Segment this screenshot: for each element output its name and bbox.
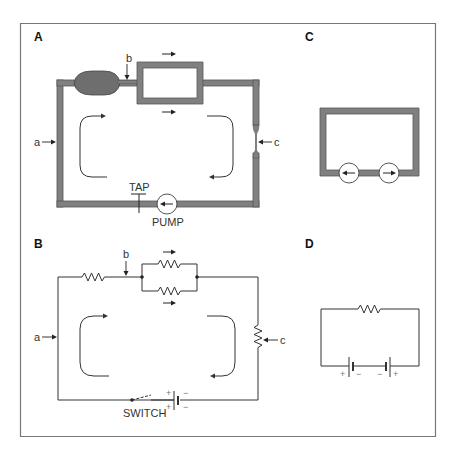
wire-left xyxy=(58,277,132,400)
panel-a: A b xyxy=(34,30,280,228)
pipe-left xyxy=(57,80,63,207)
tap-label: TAP xyxy=(129,181,150,193)
panel-d: D + − − + xyxy=(305,237,419,379)
battery-plus-top: + xyxy=(166,388,171,398)
d-wire-left xyxy=(321,309,349,366)
reservoir xyxy=(74,71,120,95)
pipe-right-upper xyxy=(253,80,259,125)
point-b-label: b xyxy=(126,52,132,64)
b-point-b-label: b xyxy=(123,248,129,260)
junction-right xyxy=(195,275,199,279)
pump-label: PUMP xyxy=(152,216,184,228)
resistor-parallel-lower xyxy=(142,277,197,295)
b-point-c-label: c xyxy=(280,334,286,346)
b-circulation-arrowhead-right-icon xyxy=(210,374,215,379)
pipe-constriction xyxy=(253,125,259,158)
point-b-arrow-icon xyxy=(125,75,130,80)
flow-arrow-top xyxy=(162,52,176,57)
point-c-arrow-icon xyxy=(258,140,263,145)
point-a-label: a xyxy=(34,136,41,148)
point-a-arrow-icon xyxy=(51,140,56,145)
switch-lever[interactable] xyxy=(132,395,151,400)
resistor-variable-right xyxy=(197,277,262,400)
circulation-arrow-left xyxy=(80,116,107,177)
d-battery2-minus: − xyxy=(377,369,382,379)
resistor-parallel-upper xyxy=(142,260,197,277)
b-circulation-arrow-left xyxy=(80,316,109,376)
b-circulation-arrowhead-left-icon xyxy=(103,314,108,319)
panel-c: C xyxy=(305,30,419,183)
panel-d-label: D xyxy=(305,237,314,251)
parallel-pipe-loop xyxy=(137,62,203,104)
b-point-b-arrow-icon xyxy=(124,271,129,276)
d-battery2-plus: + xyxy=(393,369,398,379)
battery-plus-bottom: + xyxy=(166,402,171,412)
battery-minus-bottom: − xyxy=(183,402,188,412)
d-battery1-minus: − xyxy=(356,369,361,379)
circulation-arrow-right xyxy=(207,116,233,177)
pipe-right-lower xyxy=(253,153,259,207)
panel-a-label: A xyxy=(34,30,43,44)
battery-minus-top: − xyxy=(183,388,188,398)
point-c-label: c xyxy=(274,136,280,148)
circulation-arrowhead-left-icon xyxy=(101,114,106,119)
b-point-a-arrow-icon xyxy=(52,335,57,340)
pipe-top-right xyxy=(200,80,259,86)
pipe-neck xyxy=(118,81,138,84)
b-point-a-label: a xyxy=(34,331,41,343)
b-flow-arrow-top xyxy=(163,250,176,255)
junction-left xyxy=(140,275,144,279)
flow-arrow-middle xyxy=(162,110,176,115)
resistor-series-top xyxy=(58,273,142,281)
panel-b-label: B xyxy=(34,237,43,251)
d-battery1-plus: + xyxy=(340,369,345,379)
b-point-c-arrow-icon xyxy=(263,338,268,343)
d-resistor-wire xyxy=(321,305,419,366)
b-flow-arrow-bottom xyxy=(163,301,176,306)
circuit-figure: A b xyxy=(0,0,454,453)
panel-b: B SWITCH + + − − xyxy=(34,237,286,419)
panel-c-label: C xyxy=(305,30,314,44)
panel-c-pipe-loop xyxy=(320,108,419,176)
circulation-arrowhead-right-icon xyxy=(209,175,214,180)
switch-label: SWITCH xyxy=(123,407,166,419)
b-circulation-arrow-right xyxy=(207,316,235,376)
